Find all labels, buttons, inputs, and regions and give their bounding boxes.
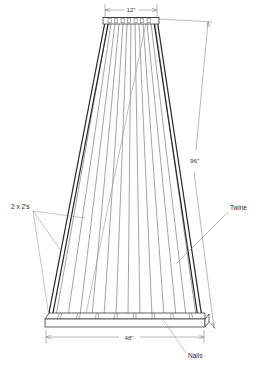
height-dim-line-lower	[194, 172, 214, 328]
height-dim-arrow-top	[208, 22, 210, 27]
twine-line	[147, 23, 176, 316]
nail-icon	[147, 19, 150, 23]
bottom-width-label: 48"	[124, 334, 133, 341]
nail-icon	[108, 19, 111, 23]
frame-member-left-inner	[52, 22, 109, 318]
trellis-drawing-svg: 12"	[0, 0, 262, 368]
top-dimension-group: 12"	[105, 4, 157, 17]
nail-icon	[133, 313, 136, 318]
top-nails-group	[108, 19, 150, 23]
twine-diagonal-cross	[86, 23, 146, 314]
twine-line	[116, 23, 127, 316]
height-dim-extension-top	[159, 19, 212, 22]
twine-line	[135, 23, 140, 316]
twine-line	[139, 23, 152, 316]
nail-icon	[141, 19, 144, 23]
height-dim-line-upper	[196, 22, 208, 150]
twine-line	[104, 23, 123, 316]
nail-icon	[115, 19, 118, 23]
height-label: 96"	[190, 157, 199, 164]
bottom-board-top-face	[45, 313, 205, 319]
lumber-leader-2	[33, 211, 62, 252]
nail-icon	[152, 313, 155, 318]
height-dim-extension-bottom	[209, 322, 216, 329]
twine-line	[151, 23, 186, 316]
twine-line	[128, 23, 131, 316]
twine-label: Twine	[230, 204, 247, 211]
nail-icon	[121, 19, 124, 23]
lumber-leader-1	[33, 211, 85, 218]
lumber-callout-group: 2 x 2's	[11, 203, 85, 316]
top-board-group	[103, 18, 159, 25]
frame-member-right-outer	[158, 22, 203, 318]
lumber-label: 2 x 2's	[11, 203, 30, 210]
nail-icon	[128, 19, 131, 23]
twine-line	[80, 23, 115, 316]
height-dimension-group: 96"	[159, 19, 216, 329]
frame-2x2-group	[48, 22, 202, 318]
twine-line	[68, 23, 111, 316]
frame-member-left-outer	[48, 22, 105, 318]
bottom-dimension-group: 48"	[46, 330, 204, 343]
bottom-board-end-cap	[205, 314, 209, 327]
frame-member-right-inner	[154, 22, 198, 318]
bottom-board-group	[45, 313, 209, 327]
top-width-label: 12"	[126, 6, 135, 13]
lumber-leader-3	[33, 211, 49, 316]
technical-drawing-canvas: 12"	[0, 0, 262, 368]
bottom-board-front-face	[45, 319, 205, 327]
nails-label: Nails	[188, 352, 203, 359]
nail-icon	[134, 19, 137, 23]
